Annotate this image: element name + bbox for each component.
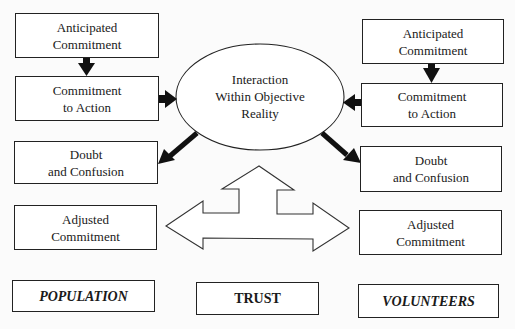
- box-line: to Action: [408, 105, 456, 122]
- box-line: Commitment: [398, 88, 467, 105]
- left-commitment-to-action-box: Commitment to Action: [15, 76, 159, 121]
- center-line-2: Within Objective: [196, 88, 324, 105]
- arrow-left-anticipated-to-action: [78, 57, 95, 76]
- box-line: Anticipated: [57, 19, 118, 36]
- box-line: and Confusion: [48, 163, 124, 180]
- box-line: Commitment: [53, 36, 122, 53]
- left-doubt-and-confusion-box: Doubt and Confusion: [14, 141, 158, 184]
- right-doubt-and-confusion-box: Doubt and Confusion: [360, 146, 502, 192]
- box-line: Doubt: [70, 146, 103, 163]
- box-line: to Action: [63, 99, 111, 116]
- trust-label-box: TRUST: [196, 282, 319, 315]
- population-label-box: POPULATION: [12, 280, 155, 312]
- right-adjusted-commitment-box: Adjusted Commitment: [359, 210, 502, 255]
- box-line: Commitment: [396, 233, 465, 250]
- volunteers-label-box: VOLUNTEERS: [358, 284, 499, 318]
- volunteers-label: VOLUNTEERS: [382, 293, 475, 310]
- center-line-3: Reality: [196, 105, 324, 122]
- right-commitment-to-action-box: Commitment to Action: [361, 83, 503, 127]
- box-line: Doubt: [415, 152, 448, 169]
- box-line: Adjusted: [407, 216, 454, 233]
- left-adjusted-commitment-box: Adjusted Commitment: [14, 205, 157, 250]
- arrow-right-action-to-center: [343, 94, 362, 111]
- box-line: Anticipated: [403, 25, 464, 42]
- arrow-right-anticipated-to-action: [423, 63, 440, 83]
- box-line: Commitment: [399, 42, 468, 59]
- box-line: Commitment: [51, 228, 120, 245]
- box-line: and Confusion: [393, 169, 469, 186]
- arrow-center-to-left-doubt: [158, 133, 197, 164]
- center-ellipse-label: Interaction Within Objective Reality: [196, 71, 324, 122]
- arrow-left-action-to-center: [158, 90, 177, 108]
- trust-label: TRUST: [234, 290, 281, 307]
- center-line-1: Interaction: [196, 71, 324, 88]
- box-line: Adjusted: [62, 211, 109, 228]
- three-way-trust-arrow: [166, 166, 349, 251]
- right-anticipated-commitment-box: Anticipated Commitment: [362, 19, 504, 64]
- arrow-center-to-right-doubt: [322, 133, 361, 163]
- left-anticipated-commitment-box: Anticipated Commitment: [15, 13, 159, 58]
- box-line: Commitment: [53, 82, 122, 99]
- population-label: POPULATION: [39, 288, 128, 305]
